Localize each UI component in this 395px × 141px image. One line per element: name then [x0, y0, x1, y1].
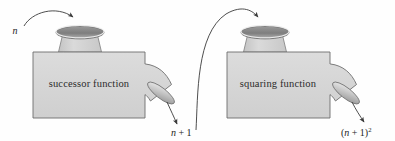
successor-output-label: n+1 [171, 127, 191, 138]
svg-text:(n+1)2: (n+1)2 [341, 126, 371, 139]
squaring-input-opening [241, 26, 289, 39]
function-machine-diagram: successor function squaring function n n… [0, 0, 395, 141]
squaring-output-arrow [352, 102, 364, 122]
squaring-output-label: (n+1)2 [341, 126, 371, 139]
machine-successor: successor function [33, 25, 177, 118]
svg-text:n+1: n+1 [171, 127, 191, 138]
successor-output-constant: 1 [186, 127, 191, 138]
squaring-output-variable: n [344, 127, 349, 138]
squaring-output-operator: + [352, 127, 358, 138]
machine-squaring: squaring function [227, 25, 362, 118]
successor-machine-label: successor function [49, 78, 130, 89]
successor-output-arrow [167, 102, 177, 124]
successor-input-opening [56, 26, 104, 39]
diagram-canvas: successor function squaring function n n… [0, 0, 395, 141]
squaring-machine-label: squaring function [240, 78, 317, 89]
squaring-output-exponent: 2 [368, 126, 371, 133]
input-arrow [24, 11, 73, 26]
successor-output-variable: n [171, 127, 176, 138]
successor-output-operator: + [178, 127, 184, 138]
input-label: n [13, 25, 18, 36]
